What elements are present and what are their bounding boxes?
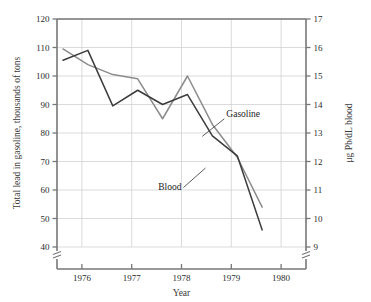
series-label-blood: Blood bbox=[158, 182, 181, 192]
y-tick-label-left: 50 bbox=[41, 214, 51, 224]
y-tick-label-left: 60 bbox=[41, 185, 51, 195]
axis-break-mark bbox=[53, 247, 61, 258]
y-tick-label-right: 17 bbox=[314, 14, 324, 24]
y-tick-label-right: 9 bbox=[314, 242, 319, 252]
y-axis-title-left: Total lead in gasoline, thousands of ton… bbox=[12, 56, 22, 209]
chart-canvas: 4050607080901001101209101112131415161719… bbox=[0, 0, 371, 302]
y-tick-label-right: 11 bbox=[314, 185, 323, 195]
y-tick-label-left: 120 bbox=[36, 14, 50, 24]
x-tick-label: 1977 bbox=[123, 273, 142, 283]
y-tick-label-left: 110 bbox=[36, 43, 50, 53]
y-tick-label-right: 16 bbox=[314, 43, 324, 53]
y-tick-label-left: 80 bbox=[41, 128, 51, 138]
leader-line-blood bbox=[184, 168, 206, 188]
y-tick-label-left: 70 bbox=[41, 157, 51, 167]
y-tick-label-right: 13 bbox=[314, 128, 324, 138]
series-annotations bbox=[184, 119, 225, 188]
leader-line-gasoline bbox=[202, 119, 224, 137]
y-tick-label-left: 90 bbox=[41, 100, 51, 110]
x-axis-title: Year bbox=[173, 288, 191, 298]
break-slash-2 bbox=[53, 255, 61, 258]
y-tick-label-right: 10 bbox=[314, 214, 324, 224]
break-slash-1 bbox=[53, 252, 61, 255]
y-tick-label-right: 14 bbox=[314, 100, 324, 110]
y-axis-title-right: μg Pb/dL blood bbox=[344, 103, 354, 162]
y-tick-label-right: 12 bbox=[314, 157, 323, 167]
series-label-gasoline: Gasoline bbox=[226, 109, 260, 119]
break-slash-1 bbox=[302, 252, 310, 255]
x-tick-label: 1980 bbox=[272, 273, 291, 283]
x-tick-label: 1979 bbox=[222, 273, 241, 283]
series-line-blood bbox=[63, 50, 262, 230]
gridlines bbox=[57, 19, 306, 247]
x-tick-label: 1978 bbox=[173, 273, 192, 283]
axis-break-mark bbox=[302, 247, 310, 258]
y-tick-label-left: 40 bbox=[41, 242, 51, 252]
x-tick-label: 1976 bbox=[73, 273, 92, 283]
lead-in-gasoline-vs-blood-chart: 4050607080901001101209101112131415161719… bbox=[0, 0, 371, 302]
y-tick-label-right: 15 bbox=[314, 71, 324, 81]
break-slash-2 bbox=[302, 255, 310, 258]
y-tick-label-left: 100 bbox=[36, 71, 50, 81]
